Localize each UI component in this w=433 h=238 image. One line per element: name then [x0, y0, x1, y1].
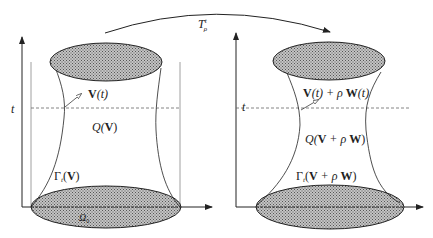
right-axis-label: t — [242, 100, 246, 114]
left-lateral-left — [31, 67, 65, 207]
left-lateral-label: Γt(V) — [54, 169, 80, 184]
right-boundary-pointer — [301, 100, 318, 110]
right-boundary-label: V(t) + ρ W(t) — [303, 86, 369, 100]
left-axis-label: t — [11, 102, 15, 116]
left-boundary-label: V(t) — [88, 87, 108, 101]
right-lateral-label: Γt(V + ρ W) — [296, 169, 356, 184]
right-lateral-right — [366, 72, 400, 203]
left-panel: t V(t) Q(V) Γt(V) Ω0 — [11, 37, 212, 228]
transform-arrow: Ttρ — [105, 14, 330, 33]
transform-label: Ttρ — [198, 17, 208, 33]
right-panel: t V(t) + ρ W(t) Q(V + ρ W) Γt(V + ρ W) — [236, 33, 423, 229]
right-tube-label: Q(V + ρ W) — [305, 132, 365, 146]
left-tube-label: Q(V) — [92, 120, 117, 134]
right-lateral-left — [257, 73, 300, 205]
transform-arc — [105, 14, 330, 33]
left-boundary-pointer — [65, 94, 81, 107]
left-lateral-right — [156, 68, 180, 207]
right-top-domain — [273, 42, 385, 80]
left-top-domain — [50, 43, 162, 81]
domain-transformation-diagram: Ttρ t V(t) Q(V) Γt(V) — [0, 0, 433, 238]
